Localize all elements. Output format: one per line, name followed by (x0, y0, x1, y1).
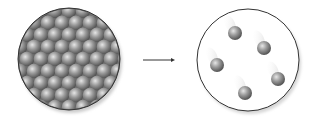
particle (238, 86, 252, 100)
packed-particles (0, 0, 153, 124)
particle (271, 72, 285, 86)
particle (257, 41, 271, 55)
left-panel-dense (0, 0, 153, 124)
diagram (0, 0, 317, 124)
particle (228, 26, 242, 40)
particle (210, 58, 224, 72)
right-panel-dispersed (197, 9, 301, 114)
arrow (143, 58, 175, 62)
